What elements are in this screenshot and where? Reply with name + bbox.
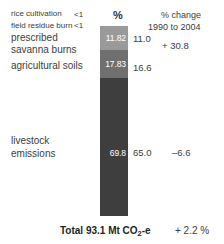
bar-segment-livestock-emissions: 69.8: [100, 78, 128, 216]
total-suffix: -e: [142, 225, 151, 236]
category-label-rice-cultivation: rice cultivation: [11, 10, 62, 18]
bar-segment-value-prescribed: 11.82: [106, 33, 126, 43]
total-label: Total 93.1 Mt CO2-e: [60, 226, 151, 236]
category-label-field-residue-burn: field residue burn: [11, 22, 72, 30]
category-label-savanna-burns: savanna burns: [11, 45, 77, 55]
category-label-livestock-line1: livestock: [11, 136, 49, 146]
bar-segment-agricultural-soils: 17.83: [100, 50, 128, 78]
change-column-header-line2: 1990 to 2004: [148, 23, 201, 32]
percent-column-header: %: [113, 10, 123, 21]
bar-segment-value-agricultural-soils: 17.83: [105, 59, 126, 69]
category-label-agricultural-soils: agricultural soils: [11, 61, 83, 71]
change-column-header-line1: % change: [161, 11, 201, 20]
value-rice-cultivation: <1: [74, 11, 83, 19]
total-change-value: + 2.2 %: [175, 226, 209, 236]
stacked-bar-chart: rice cultivation field residue burn pres…: [0, 0, 224, 244]
percent-value-agricultural-soils: 16.6: [133, 63, 152, 73]
stacked-bar: 11.82 17.83 69.8: [100, 26, 128, 216]
change-value-livestock: –6.6: [172, 148, 191, 158]
category-label-prescribed: prescribed: [11, 33, 58, 43]
percent-value-prescribed: 11.0: [133, 34, 151, 44]
value-field-residue-burn: <1: [74, 22, 83, 30]
bar-segment-value-livestock: 69.8: [110, 148, 126, 158]
total-subscript: 2: [138, 229, 142, 238]
total-prefix: Total 93.1 Mt CO: [60, 225, 138, 236]
category-label-livestock-line2: emissions: [11, 149, 55, 159]
bar-segment-prescribed-savanna-burns: 11.82: [100, 26, 128, 50]
change-value-prescribed: + 30.8: [162, 41, 189, 51]
percent-value-livestock: 65.0: [133, 148, 152, 158]
